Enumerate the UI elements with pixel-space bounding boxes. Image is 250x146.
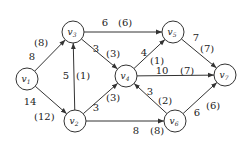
edge-capacity-label: 6 <box>102 17 108 28</box>
edge-capacity-label: 3 <box>147 86 153 97</box>
edge-capacity-label: 5 <box>63 70 69 81</box>
edge-capacity-label: 8 <box>133 125 139 136</box>
edge-flow-label: (6) <box>206 100 220 111</box>
edge-capacity-label: 7 <box>193 32 199 43</box>
node-v1: v1 <box>16 68 38 90</box>
edge-capacity-label: 6 <box>194 107 200 118</box>
edge-capacity-label: 4 <box>141 47 147 58</box>
edge-flow-label: (3) <box>106 48 120 59</box>
edge-flow-label: (8) <box>150 125 164 136</box>
edge-capacity-label: 10 <box>156 65 169 76</box>
network-flow-diagram: 8(8)14(12)5(1)6(6)3(3)3(3)4(1)10(7)7(7)3… <box>0 0 250 146</box>
edge-v4-v7 <box>137 75 214 76</box>
edge-flow-label: (12) <box>34 111 55 122</box>
edge-v2-v3 <box>73 43 75 110</box>
edge-flow-label: (2) <box>158 95 172 106</box>
edge-flow-label: (6) <box>118 17 132 28</box>
node-v2: v2 <box>64 110 86 132</box>
node-v7: v7 <box>214 64 236 86</box>
edge-v1-v2 <box>35 86 66 114</box>
edge-flow-label: (1) <box>76 70 90 81</box>
edge-capacity-label: 8 <box>29 51 35 62</box>
edge-flow-label: (7) <box>200 43 214 54</box>
node-v4: v4 <box>115 65 137 87</box>
node-v3: v3 <box>62 21 84 43</box>
edge-flow-label: (8) <box>34 37 48 48</box>
edge-capacity-label: 3 <box>93 102 99 113</box>
edge-flow-label: (3) <box>106 92 120 103</box>
edge-capacity-label: 3 <box>93 43 99 54</box>
edge-capacity-label: 14 <box>24 96 37 107</box>
node-v6: v6 <box>164 110 186 132</box>
node-v5: v5 <box>162 21 184 43</box>
edge-flow-label: (7) <box>180 65 194 76</box>
